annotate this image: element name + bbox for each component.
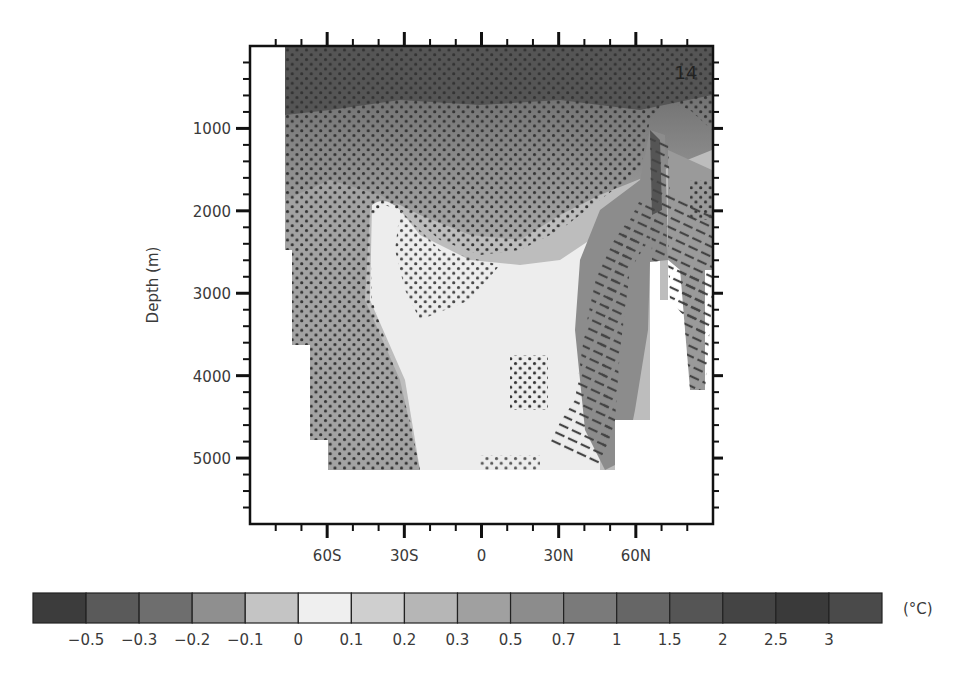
colorbar-level-label: 1 xyxy=(612,631,622,649)
colorbar-swatch xyxy=(139,593,192,623)
x-axis-labels: 60S30S030N60N xyxy=(313,547,651,565)
x-tick-label: 60N xyxy=(621,547,651,565)
colorbar-swatch xyxy=(564,593,617,623)
colorbar-swatch xyxy=(33,593,86,623)
colorbar-level-label: −0.1 xyxy=(227,631,263,649)
chart: 60S30S030N60N 10002000300040005000 Depth… xyxy=(0,0,969,681)
y-tick-label: 3000 xyxy=(193,285,231,303)
colorbar-level-label: 2.5 xyxy=(764,631,788,649)
y-axis-labels: 10002000300040005000 xyxy=(193,120,231,468)
colorbar-level-label: 0.3 xyxy=(446,631,470,649)
y-tick-label: 4000 xyxy=(193,368,231,386)
colorbar-level-label: −0.2 xyxy=(174,631,210,649)
colorbar-swatch xyxy=(723,593,776,623)
colorbar-level-label: −0.3 xyxy=(121,631,157,649)
x-tick-label: 60S xyxy=(313,547,342,565)
colorbar-level-label: −0.5 xyxy=(68,631,104,649)
colorbar-unit: (°C) xyxy=(903,600,933,618)
colorbar-swatch xyxy=(404,593,457,623)
colorbar-level-label: 2 xyxy=(718,631,728,649)
colorbar xyxy=(33,593,882,623)
colorbar-level-label: 0 xyxy=(294,631,304,649)
y-tick-label: 2000 xyxy=(193,203,231,221)
y-tick-label: 1000 xyxy=(193,120,231,138)
colorbar-swatch xyxy=(458,593,511,623)
colorbar-swatch xyxy=(829,593,882,623)
colorbar-swatch xyxy=(192,593,245,623)
colorbar-swatch xyxy=(351,593,404,623)
temperature-field xyxy=(251,47,712,523)
y-axis-title: Depth (m) xyxy=(144,247,162,324)
colorbar-level-label: 0.1 xyxy=(339,631,363,649)
colorbar-level-label: 0.7 xyxy=(552,631,576,649)
colorbar-swatch xyxy=(298,593,351,623)
colorbar-labels: −0.5−0.3−0.2−0.100.10.20.30.50.711.522.5… xyxy=(68,631,834,649)
colorbar-swatch xyxy=(617,593,670,623)
x-tick-label: 30N xyxy=(544,547,574,565)
x-tick-label: 30S xyxy=(390,547,419,565)
colorbar-level-label: 1.5 xyxy=(658,631,682,649)
colorbar-level-label: 3 xyxy=(824,631,834,649)
colorbar-swatch xyxy=(511,593,564,623)
colorbar-swatch xyxy=(776,593,829,623)
x-tick-label: 0 xyxy=(477,547,487,565)
colorbar-level-label: 0.5 xyxy=(499,631,523,649)
colorbar-swatch xyxy=(670,593,723,623)
panel-label: 14 xyxy=(675,62,698,83)
colorbar-swatch xyxy=(86,593,139,623)
y-tick-label: 5000 xyxy=(193,450,231,468)
colorbar-swatch xyxy=(245,593,298,623)
colorbar-level-label: 0.2 xyxy=(393,631,417,649)
